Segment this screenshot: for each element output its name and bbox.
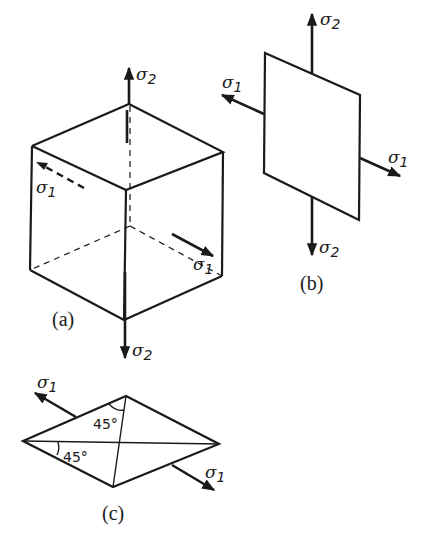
- angle-label-top: 45°: [93, 416, 118, 432]
- panel-c-label: (c): [102, 502, 124, 525]
- angle-label-left: 45°: [63, 449, 88, 465]
- sigma2-top-label: σ2: [136, 64, 157, 87]
- panel-a-cube: σ2 σ2 σ1 σ1 (a): [30, 64, 223, 363]
- cube-hidden-left: [30, 226, 130, 270]
- sigma2-bottom-label: σ2: [319, 237, 340, 260]
- plate-outline: [264, 53, 360, 220]
- sigma1-right-label: σ1: [193, 254, 214, 277]
- stress-element-diagram: σ2 σ2 σ1 σ1 (a) σ2 σ2 σ1 σ1 (b): [0, 0, 426, 542]
- panel-a-label: (a): [52, 308, 74, 331]
- cube-left-edge: [30, 146, 32, 270]
- rhombus-horizontal-diagonal: [23, 441, 219, 444]
- sigma1-left-arrow: [35, 393, 76, 417]
- sigma2-top-label: σ2: [320, 9, 341, 32]
- sigma1-left-arrowhead: [36, 162, 48, 170]
- sigma1-left-label: σ1: [222, 72, 243, 95]
- sigma1-left-label: σ1: [36, 177, 57, 200]
- angle-arc-left: [57, 442, 59, 455]
- panel-b-label: (b): [300, 272, 323, 295]
- panel-c-rhombus: 45° 45° σ1 σ1 (c): [23, 372, 226, 525]
- angle-arc-top: [108, 403, 124, 410]
- sigma1-right-label: σ1: [205, 462, 226, 485]
- sigma2-bottom-label: σ2: [132, 340, 153, 363]
- panel-b-plate: σ2 σ2 σ1 σ1 (b): [222, 9, 409, 295]
- sigma1-right-label: σ1: [388, 147, 409, 170]
- sigma1-left-label: σ1: [37, 372, 58, 395]
- sigma1-left-arrow: [222, 95, 264, 114]
- cube-right-edge: [222, 152, 223, 276]
